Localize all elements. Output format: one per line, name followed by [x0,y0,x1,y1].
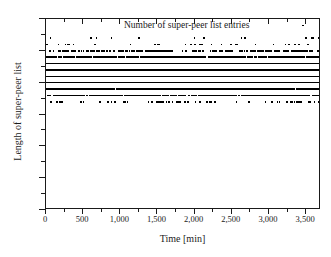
data-point [49,95,51,97]
data-point [320,76,321,78]
x-tick-top-1500 [156,19,157,24]
x-tick-top-2500 [231,19,232,24]
data-point [68,50,70,52]
data-point [309,101,311,103]
data-point [236,44,238,46]
data-point [246,50,248,52]
data-point [99,101,101,103]
data-point [60,56,62,58]
data-point [199,101,201,103]
data-point [78,50,80,52]
data-point [56,101,58,103]
data-point [288,44,290,46]
data-point [215,50,217,52]
scatter-chart-figure: Length of super-peer list 051015202530 N… [0,0,331,257]
x-minor-tick [138,209,139,212]
x-minor-tick [175,209,176,212]
data-point [256,56,258,58]
data-point [302,25,304,27]
data-point [294,44,296,46]
data-point [172,50,174,52]
data-point [130,44,132,46]
data-point [127,101,129,103]
data-point [69,44,71,46]
data-point [184,95,186,97]
data-point [83,50,85,52]
x-minor-tick-top [64,19,65,22]
x-minor-tick [101,209,102,212]
x-minor-tick-top [101,19,102,22]
data-point [46,44,48,46]
data-point [287,50,289,52]
data-point [151,101,153,103]
data-point [232,50,234,52]
data-point [285,44,287,46]
data-point [163,101,165,103]
x-axis-title: Time [min] [0,233,331,244]
data-point [50,37,52,39]
data-point [244,37,246,39]
x-tick-label-3500: 3,500 [296,215,315,224]
data-point [279,101,281,103]
data-point [319,82,320,84]
data-point [111,37,113,39]
data-point [50,50,52,52]
data-point [319,76,320,78]
data-point [319,82,320,84]
data-point [206,101,208,103]
data-point [194,44,196,46]
data-point [313,37,315,39]
data-point [114,101,116,103]
data-point [319,56,320,58]
data-point [169,101,171,103]
data-point [188,101,190,103]
x-minor-tick-top [138,19,139,22]
data-point [166,101,168,103]
x-minor-tick [287,209,288,212]
data-point [138,37,140,39]
data-point [148,101,150,103]
data-point [214,101,216,103]
x-tick-label-2500: 2,500 [221,215,240,224]
data-point [221,44,223,46]
x-minor-tick-top [287,19,288,22]
x-tick-top-3500 [305,19,306,24]
data-point [203,50,205,52]
data-points-layer [46,19,319,208]
data-point [179,101,181,103]
data-point [58,44,60,46]
data-point [301,101,303,103]
data-point [167,95,169,97]
x-tick-label-2000: 2,000 [184,215,203,224]
x-minor-tick [249,209,250,212]
x-minor-tick-top [249,19,250,22]
data-point [265,101,267,103]
data-point [241,37,243,39]
data-point [271,101,273,103]
x-tick-label-1500: 1,500 [147,215,166,224]
x-tick-top-1000 [119,19,120,24]
data-point [287,101,289,103]
data-point [255,44,257,46]
data-point [103,50,105,52]
data-point [319,69,320,71]
data-point [314,101,316,103]
data-point [141,50,143,52]
data-point [96,37,98,39]
x-tick-top-2000 [194,19,195,24]
data-point [303,56,305,58]
data-point [241,50,243,52]
data-point [317,50,319,52]
data-point [248,101,250,103]
data-point [203,37,205,39]
data-point [65,44,67,46]
data-point [319,69,320,71]
data-point [109,50,111,52]
data-point [244,50,246,52]
x-minor-tick [64,209,65,212]
data-point [90,37,92,39]
data-point [305,37,307,39]
data-point [222,50,224,52]
x-minor-tick-top [175,19,176,22]
data-point [107,101,109,103]
